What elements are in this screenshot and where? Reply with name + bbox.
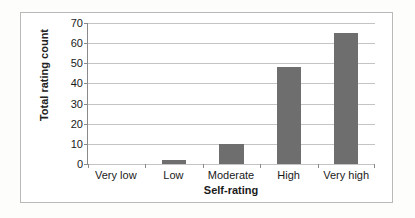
y-axis-tick-label: 70: [71, 17, 83, 29]
bar-slot: [88, 23, 145, 164]
x-axis-tick-label: High: [260, 169, 318, 181]
bar: [277, 67, 301, 164]
bar: [219, 144, 243, 164]
y-axis-tick-label: 50: [71, 57, 83, 69]
bar-series: [88, 23, 375, 164]
y-axis-tick-label: 60: [71, 37, 83, 49]
y-axis-tick-label: 40: [71, 77, 83, 89]
x-axis-tick-mark: [88, 164, 89, 168]
x-axis-tick-mark: [145, 164, 146, 168]
x-axis-tick-mark: [260, 164, 261, 168]
x-axis-tick-mark: [203, 164, 204, 168]
bar-slot: [318, 23, 375, 164]
y-axis-tick-label: 30: [71, 98, 83, 110]
x-axis-tick-mark: [374, 164, 375, 168]
y-axis-title: Total rating count: [38, 10, 50, 140]
y-axis-tick-label: 0: [77, 158, 83, 170]
x-axis-tick-label: Low: [145, 169, 203, 181]
chart-figure: Total rating count 010203040506070 Very …: [20, 12, 393, 203]
bar-slot: [260, 23, 317, 164]
plot-area: 010203040506070: [87, 23, 375, 165]
bar: [334, 33, 358, 164]
gridline: [88, 164, 375, 165]
bar-slot: [203, 23, 260, 164]
x-axis-title: Self-rating: [87, 184, 375, 196]
x-axis-tick-label: Very high: [317, 169, 375, 181]
bar-slot: [145, 23, 202, 164]
bar: [162, 160, 186, 164]
x-axis-tick-labels: Very lowLowModerateHighVery high: [87, 169, 375, 181]
x-axis-tick-mark: [318, 164, 319, 168]
x-axis-tick-label: Moderate: [202, 169, 260, 181]
y-axis-tick-label: 10: [71, 138, 83, 150]
x-axis-tick-label: Very low: [87, 169, 145, 181]
y-axis-tick-label: 20: [71, 118, 83, 130]
